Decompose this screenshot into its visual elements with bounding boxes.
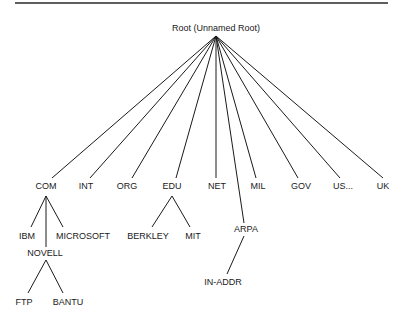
edge-root-us: [216, 36, 340, 178]
edge-novell-ftp: [28, 260, 46, 293]
edge-novell-bantu: [46, 260, 63, 293]
node-label-in-addr: IN-ADDR: [204, 277, 242, 287]
node-label-gov: GOV: [291, 181, 311, 191]
node-label-berkley: BERKLEY: [127, 231, 169, 241]
node-label-bantu: BANTU: [53, 297, 84, 307]
tree-labels: Root (Unnamed Root)COMINTORGEDUNETARPAMI…: [16, 23, 390, 307]
node-label-int: INT: [79, 181, 94, 191]
node-label-root: Root (Unnamed Root): [172, 23, 260, 33]
node-label-novell: NOVELL: [27, 248, 63, 258]
node-label-ibm: IBM: [19, 231, 35, 241]
edge-com-microsoft: [46, 196, 63, 227]
edge-root-int: [90, 36, 216, 178]
node-label-mit: MIT: [185, 231, 201, 241]
edge-root-com: [52, 36, 216, 178]
node-label-ftp: FTP: [16, 297, 33, 307]
node-label-net: NET: [208, 181, 227, 191]
node-label-org: ORG: [117, 181, 138, 191]
node-label-edu: EDU: [162, 181, 181, 191]
node-label-mil: MIL: [250, 181, 265, 191]
edge-arpa-in-addr: [227, 236, 244, 274]
edge-root-org: [132, 36, 216, 178]
edge-root-gov: [216, 36, 298, 178]
node-label-us: US...: [333, 181, 353, 191]
domain-tree-diagram: Root (Unnamed Root)COMINTORGEDUNETARPAMI…: [0, 0, 403, 322]
node-label-com: COM: [36, 181, 57, 191]
edge-edu-berkley: [152, 196, 172, 227]
node-label-arpa: ARPA: [234, 224, 258, 234]
tree-edges: [28, 36, 383, 293]
node-label-microsoft: MICROSOFT: [56, 231, 110, 241]
edge-root-mil: [216, 36, 256, 178]
node-label-uk: UK: [377, 181, 390, 191]
edge-root-arpa: [216, 36, 244, 223]
edge-root-edu: [176, 36, 216, 178]
edge-com-ibm: [31, 196, 46, 227]
edge-edu-mit: [172, 196, 190, 227]
edge-root-uk: [216, 36, 383, 178]
